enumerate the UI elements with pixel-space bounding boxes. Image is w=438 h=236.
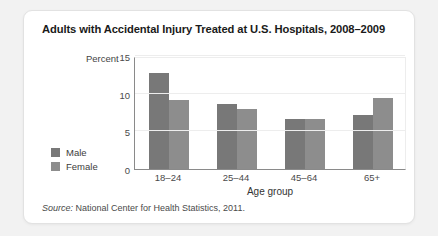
y-tick-label: 10: [119, 89, 130, 100]
x-tick-label: 65+: [364, 172, 380, 183]
gridline: [135, 130, 405, 131]
bar-male: [353, 115, 373, 169]
y-axis-tick-labels: 051015: [104, 57, 130, 170]
page-title: Adults with Accidental Injury Treated at…: [42, 23, 385, 35]
plot-area: [134, 57, 406, 170]
bar-group: [149, 58, 189, 169]
x-tick-label: 18–24: [155, 172, 181, 183]
bar-male: [285, 119, 305, 169]
chart-legend: MaleFemale: [51, 145, 98, 173]
source-note: Source: National Center for Health Stati…: [42, 203, 245, 213]
chart-card: Adults with Accidental Injury Treated at…: [23, 10, 415, 224]
bar-male: [149, 73, 169, 169]
screenshot-root: Adults with Accidental Injury Treated at…: [0, 0, 438, 236]
y-tick-label: 0: [125, 165, 130, 176]
bar-female: [305, 119, 325, 169]
bar-group: [217, 58, 257, 169]
y-tick-label: 15: [119, 52, 130, 63]
legend-swatch-female: [51, 162, 60, 171]
bar-male: [217, 104, 237, 169]
gridline: [135, 55, 405, 56]
y-tick-label: 5: [125, 127, 130, 138]
source-text: National Center for Health Statistics, 2…: [73, 203, 245, 213]
legend-label: Male: [66, 147, 87, 158]
bar-series-container: [135, 58, 405, 169]
x-axis-tick-labels: 18–2425–4445–6465+: [134, 172, 406, 186]
legend-item-female: Female: [51, 159, 98, 173]
bar-female: [237, 109, 257, 169]
bar-female: [169, 100, 189, 169]
legend-item-male: Male: [51, 145, 98, 159]
bar-group: [285, 58, 325, 169]
source-prefix: Source:: [42, 203, 73, 213]
legend-swatch-male: [51, 148, 60, 157]
legend-label: Female: [66, 161, 98, 172]
x-axis-label: Age group: [134, 186, 406, 197]
gridline: [135, 93, 405, 94]
bar-female: [373, 98, 393, 169]
bar-group: [353, 58, 393, 169]
x-tick-label: 25–44: [223, 172, 249, 183]
x-tick-label: 45–64: [291, 172, 317, 183]
